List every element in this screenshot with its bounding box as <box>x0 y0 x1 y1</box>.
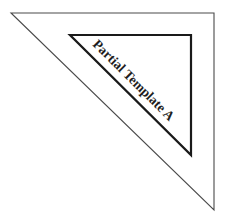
inner-triangle <box>70 35 191 155</box>
outer-triangle <box>11 13 214 210</box>
template-label: Partial Template A <box>90 36 178 123</box>
template-diagram: Partial Template A <box>0 0 227 222</box>
